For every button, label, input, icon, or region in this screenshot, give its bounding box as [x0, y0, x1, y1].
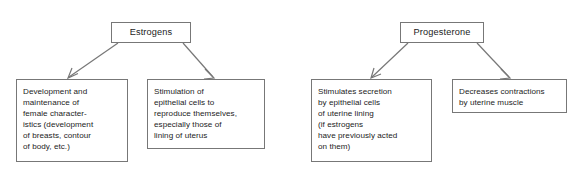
arrow-progesterone-to-effect-2: [477, 43, 510, 79]
diagram-canvas: Estrogens Development and maintenance of…: [0, 0, 583, 175]
node-progesterone-header-label: Progesterone: [414, 28, 471, 37]
node-progesterone-effect-2[interactable]: Decreases contractions by uterine muscle: [452, 79, 567, 113]
node-progesterone-effect-1[interactable]: Stimulates secretion by epithelial cells…: [311, 79, 432, 162]
node-estrogens-effect-1[interactable]: Development and maintenance of female ch…: [16, 79, 128, 162]
node-progesterone-effect-1-label: Stimulates secretion by epithelial cells…: [318, 86, 431, 153]
node-progesterone-effect-2-label: Decreases contractions by uterine muscle: [459, 86, 566, 108]
node-estrogens-header-label: Estrogens: [130, 28, 173, 37]
arrow-estrogens-to-effect-2: [183, 43, 214, 79]
arrow-progesterone-to-effect-1: [371, 43, 408, 78]
arrow-estrogens-to-effect-1: [68, 43, 118, 78]
node-estrogens-effect-2-label: Stimulation of epithelial cells to repro…: [154, 86, 264, 141]
node-progesterone-header[interactable]: Progesterone: [400, 22, 484, 43]
node-estrogens-header[interactable]: Estrogens: [111, 22, 191, 43]
node-estrogens-effect-1-label: Development and maintenance of female ch…: [23, 86, 127, 153]
node-estrogens-effect-2[interactable]: Stimulation of epithelial cells to repro…: [147, 79, 265, 149]
